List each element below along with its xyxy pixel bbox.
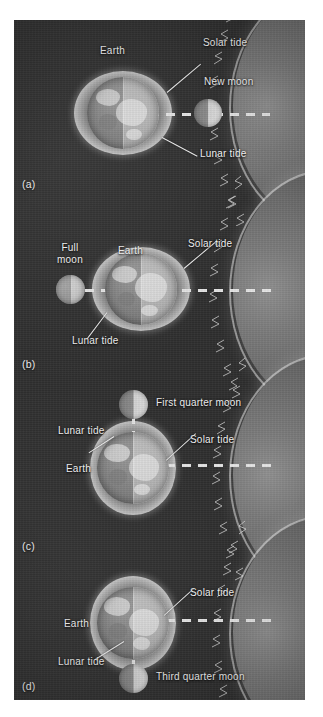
moon-third-quarter-d (119, 664, 148, 693)
label-full-moon-line1: Full (62, 242, 79, 253)
earth-rim-a (87, 77, 159, 149)
panel-tag-b: (b) (22, 358, 35, 370)
earth-rim-b (105, 253, 177, 325)
earth-sun-line-d (166, 619, 276, 622)
label-lunar-tide-d: Lunar tide (58, 656, 104, 668)
label-third-quarter-moon-d: Third quarter moon (156, 671, 245, 683)
label-solar-tide-a: Solar tide (203, 37, 247, 49)
label-earth-b: Earth (118, 245, 143, 257)
label-earth-c: Earth (66, 463, 91, 475)
panel-a: Earth Solar tide New moon Lunar tide (a) (14, 20, 305, 200)
panel-tag-d: (d) (22, 680, 35, 692)
label-first-quarter-moon-c: First quarter moon (156, 397, 241, 409)
earth-globe-d (97, 587, 169, 659)
earth-globe-a (87, 77, 159, 149)
earth-sun-line-c (166, 464, 276, 467)
label-lunar-tide-b: Lunar tide (72, 335, 118, 347)
label-lunar-tide-a: Lunar tide (200, 148, 246, 160)
earth-rim-c (97, 432, 169, 504)
label-earth-a: Earth (100, 45, 125, 57)
panel-c: First quarter moon Lunar tide Solar tide… (14, 380, 305, 563)
label-full-moon-b: Full moon (47, 242, 93, 265)
panel-d: Solar tide Earth Lunar tide Third quarte… (14, 563, 305, 700)
panel-tag-c: (c) (22, 540, 35, 552)
label-new-moon-a: New moon (204, 76, 253, 88)
moon-new-a (194, 99, 222, 127)
moon-first-quarter-c (119, 390, 148, 419)
earth-globe-b (105, 253, 177, 325)
earth-globe-c (97, 432, 169, 504)
label-lunar-tide-c: Lunar tide (58, 425, 104, 437)
panel-b: Full moon Earth Solar tide Lunar tide (b… (14, 200, 305, 380)
panel-tag-a: (a) (22, 178, 35, 190)
earth-rim-d (97, 587, 169, 659)
earth-a (74, 64, 172, 162)
label-solar-tide-d: Solar tide (190, 587, 234, 599)
tides-figure: Earth Solar tide New moon Lunar tide (a) (14, 20, 305, 700)
label-earth-d: Earth (64, 618, 89, 630)
moon-full-b (56, 275, 85, 304)
label-solar-tide-c: Solar tide (190, 434, 234, 446)
label-full-moon-line2: moon (57, 254, 83, 265)
moon-shadow-half (56, 275, 71, 304)
label-solar-tide-b: Solar tide (188, 238, 232, 250)
